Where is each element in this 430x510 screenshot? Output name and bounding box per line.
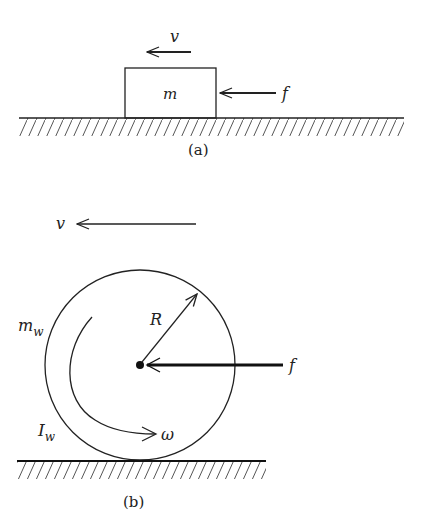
wheel-center-dot	[136, 361, 144, 369]
force-label-b: f	[288, 356, 298, 375]
wheel-inertia-label: Iw	[37, 420, 56, 444]
block-mass-label: m	[163, 85, 177, 103]
force-label-a: f	[281, 84, 291, 103]
radius-label: R	[149, 310, 162, 329]
velocity-label-a: v	[170, 27, 179, 46]
wheel-mass-label: mw	[18, 316, 44, 339]
caption-b: (b)	[123, 493, 144, 510]
wheel-inertia-subscript: w	[45, 430, 56, 444]
figure-a: v m f (a)	[19, 27, 404, 159]
ground-a	[19, 118, 404, 136]
velocity-label-b: v	[56, 214, 65, 233]
caption-a: (a)	[188, 141, 209, 159]
figure-canvas: v m f (a) v R	[0, 0, 430, 510]
wheel-mass-symbol: m	[18, 316, 33, 335]
figure-b: v R f ω mw Iw	[17, 214, 298, 510]
wheel-mass-subscript: w	[33, 325, 44, 339]
ground-b	[17, 461, 266, 479]
angular-velocity-arrow	[70, 317, 156, 441]
force-arrow-b	[147, 358, 283, 372]
angular-velocity-label: ω	[161, 425, 174, 444]
